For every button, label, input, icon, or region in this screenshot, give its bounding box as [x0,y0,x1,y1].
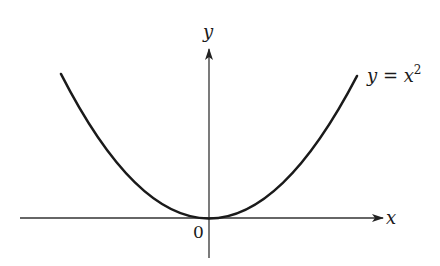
equation-equals: = [377,65,404,86]
x-axis-label: x [386,207,396,228]
curve-equation-label: y = x2 [366,63,422,86]
origin-label: 0 [193,222,204,242]
equation-exponent: 2 [414,63,422,77]
y-axis-label: y [202,21,214,42]
parabola-figure: y x 0 y = x2 [0,0,440,266]
equation-base: x [404,65,414,86]
